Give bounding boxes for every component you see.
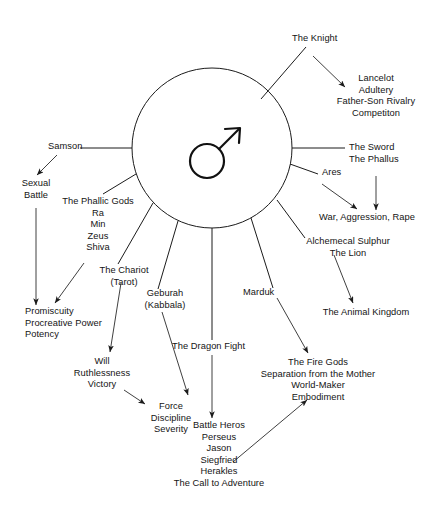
node-animal-kingdom: The Animal Kingdom xyxy=(323,307,410,319)
node-samson: Samson xyxy=(48,141,82,153)
node-war-aggression-rape: War, Aggression, Rape xyxy=(319,212,415,224)
spoke-ares xyxy=(290,164,318,174)
node-phallic-gods: The Phallic Gods Ra Min Zeus Shiva xyxy=(62,196,134,254)
node-fire-gods: The Fire Gods Separation from the Mother… xyxy=(261,357,375,403)
spoke-the-knight xyxy=(261,47,306,99)
arrow-geburah-to-force xyxy=(162,312,188,395)
node-sexual-battle: Sexual Battle xyxy=(22,178,51,201)
node-ares: Ares xyxy=(322,167,341,179)
node-will-ruthlessness-victory: Will Ruthlessness Victory xyxy=(74,356,130,391)
arrow-samson-to-sexual-battle xyxy=(37,155,57,175)
arrow-marduk-to-fire-gods xyxy=(277,298,308,353)
arrow-ares-to-war xyxy=(322,184,357,209)
arrow-lion-to-animal-kingdom xyxy=(334,255,353,303)
node-dragon-fight: The Dragon Fight xyxy=(172,341,245,353)
node-marduk: Marduk xyxy=(243,287,274,299)
node-knight-traits: Lancelot Adultery Father-Son Rivalry Com… xyxy=(337,73,415,119)
arrow-phallic-gods-to-promiscuity xyxy=(55,263,84,303)
node-the-chariot: The Chariot (Tarot) xyxy=(99,265,148,288)
center-circle xyxy=(132,68,292,228)
mars-symbol xyxy=(190,128,240,178)
spoke-phallic-gods xyxy=(103,174,136,194)
node-force-discipline-severity: Force Discipline Severity xyxy=(151,401,191,436)
spoke-marduk xyxy=(251,218,273,288)
arrow-chariot-to-will xyxy=(110,283,121,352)
node-promiscuity: Promiscuity Procreative Power Potency xyxy=(25,306,102,341)
spoke-geburah xyxy=(158,221,178,289)
node-alchemecal-sulphur: Alchemecal Sulphur The Lion xyxy=(306,236,390,259)
node-geburah: Geburah (Kabbala) xyxy=(145,288,186,311)
node-the-sword: The Sword The Phallus xyxy=(349,142,399,165)
arrow-victory-to-force xyxy=(124,390,145,404)
spoke-alchemecal-sulphur xyxy=(277,200,305,238)
node-the-knight: The Knight xyxy=(292,33,337,45)
diagram-canvas: The Knight Lancelot Adultery Father-Son … xyxy=(0,0,431,524)
